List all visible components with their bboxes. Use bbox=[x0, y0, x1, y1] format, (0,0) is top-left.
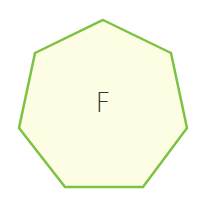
diagram-canvas: F bbox=[0, 0, 203, 200]
shape-label: F bbox=[96, 88, 111, 118]
